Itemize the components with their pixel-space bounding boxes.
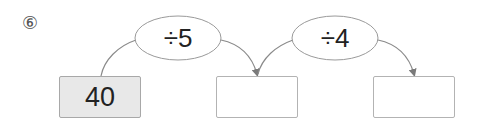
arc-line-2-out bbox=[378, 40, 414, 74]
operation-label-divide-4: ÷4 bbox=[292, 22, 378, 54]
arc-line-1-out bbox=[221, 40, 257, 74]
answer-box-1[interactable] bbox=[216, 76, 298, 118]
operation-label-divide-5: ÷5 bbox=[135, 22, 221, 54]
arc-line-2-in bbox=[258, 40, 293, 74]
answer-box-2[interactable] bbox=[373, 76, 455, 118]
start-value-box: 40 bbox=[59, 76, 141, 118]
arc-line-1-in bbox=[101, 40, 136, 76]
